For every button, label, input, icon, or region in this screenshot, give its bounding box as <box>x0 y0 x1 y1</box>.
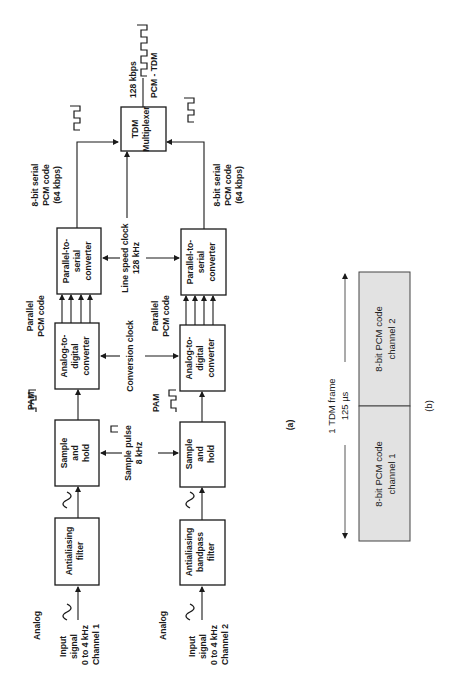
figure-a-label: (a) <box>285 420 295 431</box>
svg-text:filter: filter <box>75 541 85 560</box>
svg-text:PCM code: PCM code <box>36 295 46 337</box>
svg-text:hold: hold <box>81 444 91 462</box>
svg-text:Antialiasing: Antialiasing <box>184 528 194 577</box>
svg-text:8-bit serial: 8-bit serial <box>30 164 40 207</box>
svg-text:Conversion clock: Conversion clock <box>125 320 135 392</box>
svg-text:Sample pulse: Sample pulse <box>123 425 133 481</box>
svg-text:and: and <box>70 445 80 460</box>
svg-text:Parallel-to-: Parallel-to- <box>61 239 71 284</box>
figure-b-label: (b) <box>423 400 434 412</box>
sine-wave-icon <box>63 604 71 620</box>
svg-text:PCM code: PCM code <box>41 164 51 206</box>
sine-wave-icon <box>186 604 194 620</box>
svg-text:hold: hold <box>206 445 216 463</box>
svg-text:0 to 4 kHz: 0 to 4 kHz <box>209 625 219 665</box>
svg-text:Sample: Sample <box>59 437 69 468</box>
svg-text:(64 kbps): (64 kbps) <box>234 166 244 204</box>
svg-text:PCM - TDM: PCM - TDM <box>149 53 159 98</box>
sine-wave-icon <box>186 492 194 508</box>
svg-text:serial: serial <box>72 250 82 272</box>
channel-1-chain: Analog Input signal 0 to 4 kHz Channel 1… <box>25 106 118 665</box>
svg-text:1 TDM frame: 1 TDM frame <box>326 378 337 433</box>
svg-text:digital: digital <box>195 345 205 370</box>
tdm-pulse-train-icon <box>137 25 147 76</box>
svg-text:128 kbps: 128 kbps <box>128 61 138 98</box>
svg-text:converter: converter <box>207 242 217 282</box>
ch1-input-label: Input signal 0 to 4 kHz Channel 1 <box>58 624 101 665</box>
svg-text:Analog-to-: Analog-to- <box>184 336 194 379</box>
svg-text:Parallel-to-: Parallel-to- <box>185 240 195 285</box>
sine-wave-icon <box>63 492 71 508</box>
svg-text:PCM code: PCM code <box>161 295 171 337</box>
frame-duration-label: 1 TDM frame 125 µs <box>326 378 350 433</box>
svg-text:Antialiasing: Antialiasing <box>64 527 74 576</box>
svg-text:converter: converter <box>206 338 216 378</box>
svg-text:Input: Input <box>187 636 197 657</box>
svg-text:0 to 4 kHz: 0 to 4 kHz <box>80 625 90 665</box>
svg-text:digital: digital <box>70 343 80 368</box>
svg-text:8-bit serial: 8-bit serial <box>212 164 222 207</box>
svg-text:channel 1: channel 1 <box>386 453 397 494</box>
slot-channel-1 <box>359 406 410 541</box>
pulse-train-icon <box>184 98 194 122</box>
svg-text:filter: filter <box>206 542 216 561</box>
svg-text:serial: serial <box>196 251 206 273</box>
tdm-pcm-diagram: Analog Input signal 0 to 4 kHz Channel 1… <box>0 0 449 683</box>
svg-text:(64 kbps): (64 kbps) <box>52 166 62 204</box>
tdm-frame-figure: 1 TDM frame 125 µs 8-bit PCM codechannel… <box>326 272 434 541</box>
svg-text:channel 2: channel 2 <box>386 318 397 359</box>
svg-text:Analog: Analog <box>32 611 42 640</box>
svg-text:8-bit PCM code: 8-bit PCM code <box>373 306 384 371</box>
svg-text:(b): (b) <box>423 400 434 412</box>
svg-text:PAM: PAM <box>151 394 161 412</box>
svg-text:Input: Input <box>58 636 68 657</box>
clock-pulse-icon <box>111 426 118 432</box>
svg-text:Parallel: Parallel <box>25 301 35 332</box>
svg-text:signal: signal <box>69 634 79 659</box>
svg-text:TDM: TDM <box>130 120 140 139</box>
ch1-analog-label: Analog <box>32 611 42 640</box>
pulse-train-icon <box>70 106 80 130</box>
svg-text:8 kHz: 8 kHz <box>134 442 144 464</box>
svg-text:Line speed clock: Line speed clock <box>120 223 130 292</box>
svg-text:125 µs: 125 µs <box>339 391 350 420</box>
svg-text:Analog-to-: Analog-to- <box>59 334 69 377</box>
svg-text:PCM code: PCM code <box>223 164 233 206</box>
svg-text:Channel 1: Channel 1 <box>91 624 101 665</box>
svg-text:and: and <box>195 446 205 461</box>
svg-text:Sample: Sample <box>184 438 194 469</box>
svg-text:bandpass: bandpass <box>195 532 205 572</box>
svg-text:128 kHz: 128 kHz <box>131 242 141 274</box>
svg-text:Analog: Analog <box>158 611 168 640</box>
svg-text:Parallel: Parallel <box>150 301 160 332</box>
svg-text:(a): (a) <box>285 420 295 431</box>
channel-2-chain: Analog Input signal 0 to 4 kHz Channel 2… <box>150 98 244 665</box>
svg-text:8-bit PCM code: 8-bit PCM code <box>373 441 384 506</box>
svg-text:converter: converter <box>83 241 93 281</box>
line-speed-clock: Line speed clock128 kHz <box>103 152 179 293</box>
svg-text:Multiplexer: Multiplexer <box>141 106 151 152</box>
pam-staircase-icon <box>169 390 176 412</box>
slot-channel-2 <box>359 272 410 406</box>
svg-text:signal: signal <box>198 634 208 659</box>
sample-pulse-clock: Sample pulse8 kHz <box>101 425 178 481</box>
svg-text:Channel 2: Channel 2 <box>220 624 230 665</box>
svg-text:converter: converter <box>81 336 91 376</box>
